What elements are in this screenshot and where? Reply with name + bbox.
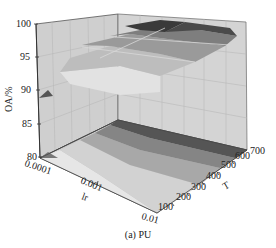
figure-caption: (a) PU bbox=[0, 229, 276, 240]
y-axis-label: T bbox=[221, 179, 232, 192]
y-tick-300: 300 bbox=[191, 181, 206, 192]
y-tick-400: 400 bbox=[206, 170, 221, 181]
z-tick-95: 95 bbox=[20, 51, 30, 62]
z-tick-100: 100 bbox=[16, 18, 31, 29]
y-tick-500: 500 bbox=[221, 159, 236, 170]
x-axis-label: lr bbox=[80, 191, 90, 204]
z-tick-85: 85 bbox=[22, 118, 32, 129]
y-tick-600: 600 bbox=[235, 150, 250, 161]
y-tick-200: 200 bbox=[176, 191, 191, 202]
y-tick-100: 100 bbox=[158, 201, 173, 212]
y-tick-700: 700 bbox=[250, 145, 265, 156]
z-tick-90: 90 bbox=[21, 84, 31, 95]
z-axis-label: OA/% bbox=[3, 86, 14, 112]
surface-chart: 100 95 90 85 80 OA/% 0.0001 0.001 0.01 l… bbox=[0, 0, 276, 248]
